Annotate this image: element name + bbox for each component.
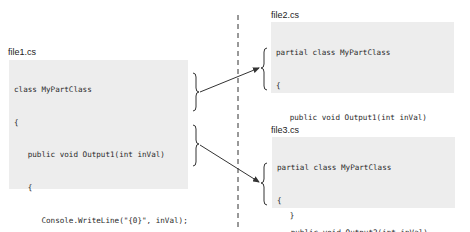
brace-file2-icon bbox=[261, 48, 267, 90]
brace-output2-icon bbox=[193, 125, 199, 166]
arrow-output2-to-file3 bbox=[200, 145, 259, 182]
arrow-output1-to-file2 bbox=[200, 68, 259, 92]
brace-output1-icon bbox=[193, 73, 199, 111]
brace-file3-icon bbox=[261, 163, 267, 205]
connectors-overlay bbox=[0, 0, 470, 232]
